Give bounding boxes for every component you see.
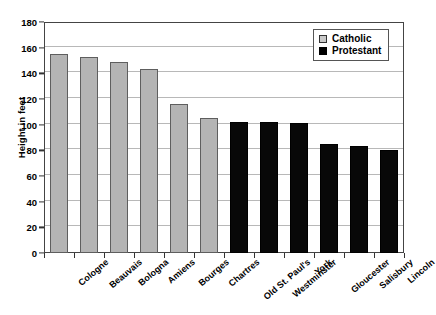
bar-bologna: [110, 62, 128, 253]
y-axis-tick-label: 160: [21, 42, 37, 53]
bar-amiens: [140, 69, 158, 253]
y-axis-tick-container: 020406080100120140160180: [0, 0, 44, 275]
legend-label: Protestant: [332, 45, 381, 57]
bar-york: [290, 123, 308, 253]
bar-cologne: [50, 54, 68, 253]
legend-item: Catholic: [319, 33, 381, 45]
x-axis-tick-mark: [404, 253, 405, 258]
chart-legend: CatholicProtestant: [313, 29, 389, 62]
y-axis-tick-label: 0: [32, 248, 37, 259]
legend-swatch-protestant-icon: [319, 47, 327, 55]
legend-label: Catholic: [332, 33, 371, 45]
bar-gloucester: [320, 144, 338, 253]
x-axis-label: Cologne: [76, 257, 110, 288]
y-axis-tick-label: 120: [21, 94, 37, 105]
x-axis-label: Chartres: [227, 257, 262, 288]
y-axis-tick-label: 140: [21, 68, 37, 79]
y-axis-tick-label: 180: [21, 17, 37, 28]
y-axis-tick-label: 60: [26, 171, 37, 182]
bar-chartres: [200, 118, 218, 253]
y-axis-tick-label: 20: [26, 222, 37, 233]
bar-bourges: [170, 104, 188, 253]
legend-swatch-catholic-icon: [319, 35, 327, 43]
bar-old-st-paul-s: [230, 122, 248, 253]
y-axis-tick-label: 40: [26, 196, 37, 207]
y-axis-tick-label: 100: [21, 119, 37, 130]
x-axis-label-container: CologneBeauvaisBolognaAmiensBourgesChart…: [44, 257, 404, 315]
bar-beauvais: [80, 57, 98, 253]
x-axis-label: Amiens: [166, 257, 197, 286]
bar-lincoln: [380, 150, 398, 253]
bar-westminster: [260, 122, 278, 253]
x-axis-label: Beauvais: [107, 257, 144, 290]
y-axis-tick-label: 80: [26, 145, 37, 156]
bar-salisbury: [350, 146, 368, 253]
legend-item: Protestant: [319, 45, 381, 57]
x-axis-label: Bourges: [197, 257, 231, 288]
